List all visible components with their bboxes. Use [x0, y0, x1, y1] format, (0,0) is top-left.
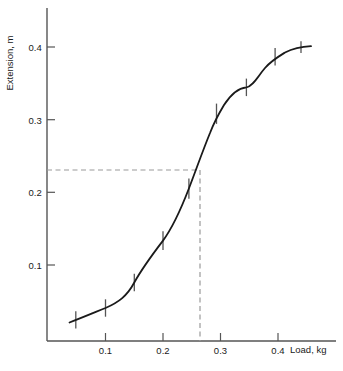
- x-tick-label-2: 0.2: [156, 345, 170, 356]
- chart-container: 0.1 0.2 0.3 0.4 0.1 0.2 0.3 0.4 Load, kg…: [0, 0, 343, 371]
- x-axis-title: Load, kg: [290, 344, 326, 355]
- y-tick-label-4: 0.4: [18, 42, 42, 53]
- y-axis-ticks: [47, 47, 55, 265]
- data-curve: [70, 46, 312, 322]
- x-axis-ticks: [106, 333, 279, 341]
- y-tick-label-1: 0.1: [18, 260, 42, 271]
- y-axis-title: Extension, m: [4, 18, 15, 108]
- y-tick-label-3: 0.3: [18, 114, 42, 125]
- y-tick-label-2: 0.2: [18, 187, 42, 198]
- error-bars: [76, 41, 301, 328]
- x-tick-label-1: 0.1: [99, 345, 113, 356]
- axis-lines: [47, 8, 336, 341]
- x-tick-label-3: 0.3: [214, 345, 228, 356]
- construction-lines: [47, 170, 200, 341]
- x-tick-label-4: 0.4: [271, 345, 285, 356]
- chart-plot-area: [0, 0, 343, 371]
